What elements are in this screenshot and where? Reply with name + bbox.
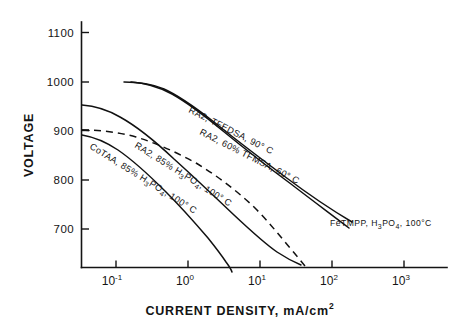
x-tick-label-1e3: 103 xyxy=(392,273,410,288)
curve-label-fetmpp-p1: FeTMPP, H xyxy=(330,218,378,228)
chart-figure: 1100 1000 900 800 700 10-1 100 101 102 1… xyxy=(0,0,461,329)
y-tick-label-1100: 1100 xyxy=(48,27,74,39)
x-tick-label-1e1: 101 xyxy=(248,273,266,288)
x-tick-exp-1: 0 xyxy=(189,273,194,282)
y-axis-title: VOLTAGE xyxy=(22,113,36,177)
x-tick-base-2: 10 xyxy=(248,274,262,288)
x-axis-title-main: CURRENT DENSITY, mA/cm xyxy=(145,304,329,318)
curve-label-fetmpp-p3: , 100°C xyxy=(400,218,432,228)
x-tick-base-3: 10 xyxy=(320,274,334,288)
x-tick-base-4: 10 xyxy=(392,274,406,288)
curve-label-ra2-tfedsa-deg: ° C xyxy=(258,141,275,156)
x-tick-base-0: 10 xyxy=(102,274,116,288)
x-tick-label-1e2: 102 xyxy=(320,273,338,288)
x-tick-base-1: 10 xyxy=(176,274,190,288)
x-tick-label-1e-1: 10-1 xyxy=(102,273,123,288)
x-axis-title-exponent: 2 xyxy=(329,301,335,311)
y-tick-label-1000: 1000 xyxy=(47,76,74,88)
y-tick-label-700: 700 xyxy=(54,223,74,235)
curve-label-cotaa-p3: , 100° C xyxy=(163,188,199,216)
x-axis-title: CURRENT DENSITY, mA/cm2 xyxy=(145,301,334,318)
curve-label-fetmpp-p2: PO xyxy=(382,218,395,228)
x-tick-exp-4: 3 xyxy=(405,273,410,282)
x-tick-exp-0: -1 xyxy=(115,273,123,282)
curve-label-ra2-tfmsa-deg: ° C xyxy=(284,171,301,186)
curve-label-fetmpp: FeTMPP, H3PO4, 100°C xyxy=(330,218,432,230)
x-tick-label-1e0: 100 xyxy=(176,273,194,288)
y-tick-label-800: 800 xyxy=(54,174,74,186)
polarization-curve-chart: 1100 1000 900 800 700 10-1 100 101 102 1… xyxy=(0,0,461,329)
x-tick-exp-2: 1 xyxy=(261,273,266,282)
y-tick-label-900: 900 xyxy=(54,125,74,137)
x-tick-exp-3: 2 xyxy=(333,273,338,282)
fetmpp-axis-start-mark xyxy=(82,130,89,131)
